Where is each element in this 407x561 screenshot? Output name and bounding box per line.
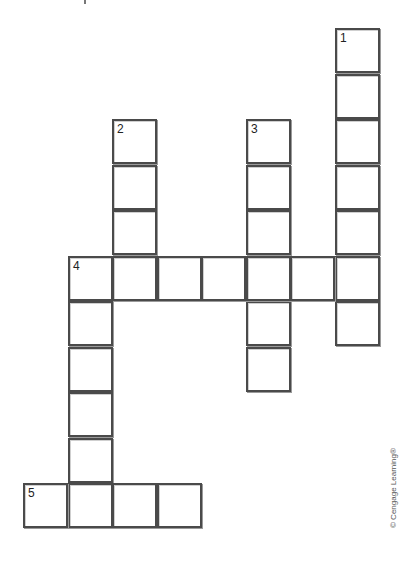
crossword-cell[interactable]: [246, 301, 291, 346]
clue-number: 2: [117, 123, 124, 135]
crossword-cell[interactable]: [112, 483, 157, 528]
crossword-cell[interactable]: 4: [68, 256, 113, 301]
crossword-cell[interactable]: [68, 392, 113, 437]
clue-number: 5: [28, 487, 35, 499]
crossword-cell[interactable]: [335, 256, 380, 301]
clue-number: 4: [73, 260, 80, 272]
crossword-cell[interactable]: [335, 165, 380, 210]
copyright-credit: © Cengage Learning®: [389, 448, 398, 528]
crossword-cell[interactable]: [157, 256, 202, 301]
crossword-cell[interactable]: [68, 483, 113, 528]
crossword-cell[interactable]: [112, 165, 157, 210]
crossword-cell[interactable]: [335, 119, 380, 164]
crossword-cell[interactable]: [112, 210, 157, 255]
crossword-cell[interactable]: [201, 256, 246, 301]
crossword-cell[interactable]: [68, 347, 113, 392]
crossword-cell[interactable]: [68, 301, 113, 346]
crossword-cell[interactable]: 5: [23, 483, 68, 528]
crossword-cell[interactable]: [290, 256, 335, 301]
crossword-cell[interactable]: [335, 301, 380, 346]
crossword-cell[interactable]: 2: [112, 119, 157, 164]
clue-number: 1: [340, 32, 347, 44]
crossword-cell[interactable]: 1: [335, 28, 380, 73]
crossword-cell[interactable]: [246, 165, 291, 210]
crossword-cell[interactable]: [246, 256, 291, 301]
clue-number: 3: [251, 123, 258, 135]
crossword-cell[interactable]: [335, 210, 380, 255]
crossword-cell[interactable]: [246, 210, 291, 255]
page-mark: [84, 0, 86, 4]
crossword-cell[interactable]: [157, 483, 202, 528]
crossword-cell[interactable]: [335, 74, 380, 119]
crossword-cell[interactable]: [112, 256, 157, 301]
crossword-grid: 12345: [0, 0, 407, 561]
crossword-cell[interactable]: [68, 438, 113, 483]
crossword-cell[interactable]: 3: [246, 119, 291, 164]
crossword-cell[interactable]: [246, 347, 291, 392]
